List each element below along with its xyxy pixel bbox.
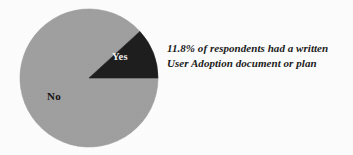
pie-slice-label-yes: Yes — [112, 51, 128, 62]
pie-chart-plot-area: No Yes — [0, 0, 175, 155]
annotation-line-1: 11.8% of respondents had a written — [167, 41, 347, 56]
pie-chart-svg — [0, 0, 175, 155]
chart-annotation-text: 11.8% of respondents had a written User … — [167, 41, 347, 70]
annotation-line-2: User Adoption document or plan — [167, 56, 347, 71]
pie-slice-label-no: No — [47, 90, 61, 102]
pie-chart-figure: No Yes 11.8% of respondents had a writte… — [0, 0, 353, 155]
